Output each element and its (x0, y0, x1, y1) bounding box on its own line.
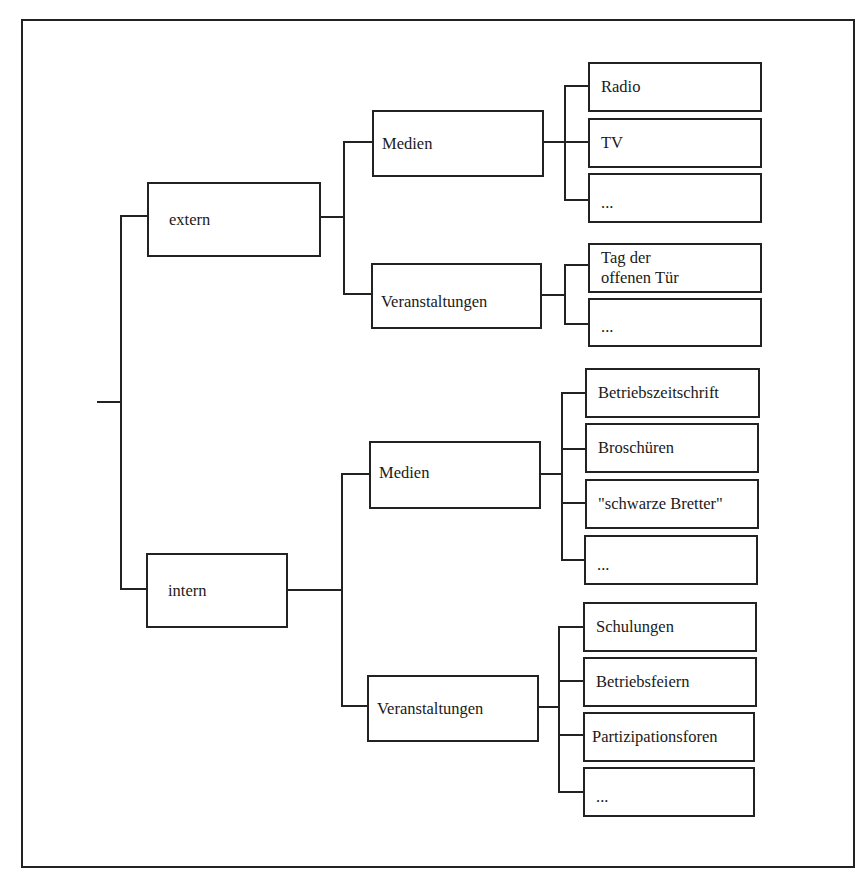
leaf-betriebszeitschrift: Betriebszeitschrift (585, 368, 760, 418)
leaf-label: ... (585, 787, 608, 815)
node-intern-medien: Medien (369, 441, 541, 509)
leaf-betriebsfeiern: Betriebsfeiern (583, 657, 757, 707)
node-label: intern (148, 581, 207, 601)
leaf-label: Tag der offenen Tür (590, 248, 679, 288)
leaf-tv: TV (588, 118, 762, 168)
node-extern: extern (147, 182, 321, 257)
node-label: extern (149, 210, 210, 230)
leaf-label: Schulungen (585, 617, 674, 637)
node-label: Veranstaltungen (369, 699, 483, 719)
leaf-schulungen: Schulungen (583, 602, 757, 652)
leaf-label: ... (590, 193, 613, 221)
node-label: Medien (371, 463, 429, 487)
node-label: Medien (374, 134, 432, 154)
leaf-label: Partizipationsforen (585, 727, 718, 747)
node-label: Veranstaltungen (373, 280, 487, 312)
leaf-label: "schwarze Bretter" (587, 494, 723, 514)
leaf-label: TV (590, 133, 623, 153)
node-intern: intern (146, 553, 288, 628)
leaf-label: Broschüren (587, 438, 674, 458)
leaf-ellipsis: ... (583, 767, 755, 817)
leaf-label: Radio (590, 77, 640, 97)
leaf-label: Betriebszeitschrift (587, 383, 719, 403)
leaf-label: Betriebsfeiern (585, 672, 689, 692)
node-extern-medien: Medien (372, 110, 544, 177)
leaf-label: ... (586, 555, 609, 583)
leaf-ellipsis: ... (588, 298, 762, 347)
leaf-partizipationsforen: Partizipationsforen (583, 712, 755, 762)
leaf-broschueren: Broschüren (585, 423, 759, 473)
node-extern-veranstaltungen: Veranstaltungen (371, 263, 542, 329)
node-intern-veranstaltungen: Veranstaltungen (367, 675, 539, 742)
leaf-label: ... (590, 317, 613, 345)
leaf-radio: Radio (588, 62, 762, 112)
leaf-ellipsis: ... (584, 535, 758, 585)
leaf-ellipsis: ... (588, 173, 762, 223)
leaf-tag-der-offenen-tuer: Tag der offenen Tür (588, 243, 762, 293)
leaf-schwarze-bretter: "schwarze Bretter" (585, 479, 759, 529)
